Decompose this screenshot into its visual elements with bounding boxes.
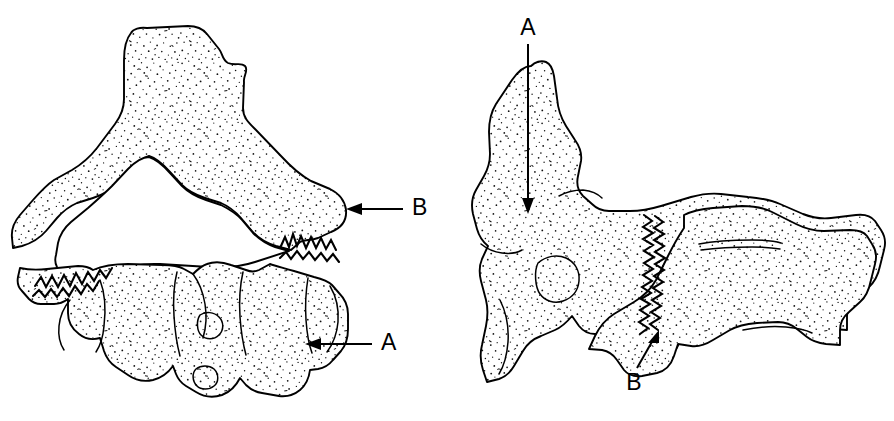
left-label-b-text: B [412,194,427,220]
right-label-b-text: B [626,369,641,395]
anatomical-illustration: B A A B [0,0,894,421]
figure-root: B A A B [0,0,894,421]
right-label-a-text: A [520,14,536,40]
left-label-a-text: A [381,329,397,355]
